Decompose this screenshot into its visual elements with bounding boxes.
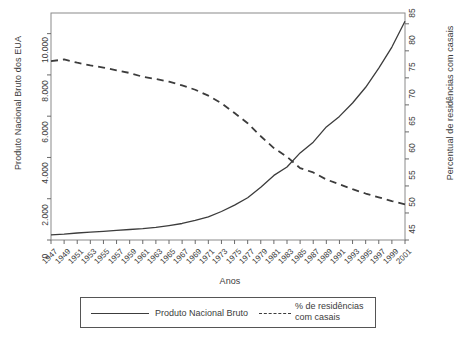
y-right-tick-label: 65 [407,111,417,131]
legend-label-gnp: Produto Nacional Bruto [155,308,248,318]
chart-figure: Produto Nacional Bruto dos EUA Percentua… [0,0,459,344]
chart-plot-area [0,0,459,344]
y-left-tick-label: 6.000 [40,115,50,149]
series-line-0 [51,21,405,235]
y-left-tick-label: 2.000 [40,198,50,232]
y-left-tick-label: 4.000 [40,156,50,190]
y-left-tick-label: 10.000 [40,33,50,67]
legend-label-households: % de residências com casais [295,301,373,323]
y-right-tick-label: 75 [407,57,417,77]
series-line-1 [51,59,405,204]
y-right-tick-label: 85 [407,3,417,23]
y-right-tick-label: 50 [407,192,417,212]
y-axis-right-title: Percentual de residências com casais [445,0,459,228]
y-right-tick-label: 45 [407,219,417,239]
y-right-tick-label: 80 [407,30,417,50]
legend-swatch-solid-icon [91,313,149,314]
y-right-tick-label: 70 [407,84,417,104]
y-left-tick-label: 8.000 [40,74,50,108]
legend-swatch-dashed-icon [259,313,291,314]
y-right-tick-label: 55 [407,165,417,185]
x-axis-title: Anos [150,276,310,286]
y-axis-left-title: Produto Nacional Bruto dos EUA [13,0,27,228]
chart-legend: Produto Nacional Bruto % de residências … [80,297,376,328]
y-right-tick-label: 60 [407,138,417,158]
